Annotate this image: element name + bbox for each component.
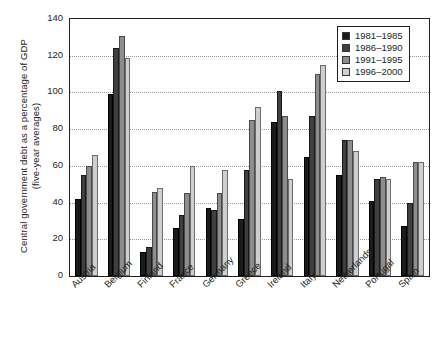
legend-swatch-icon	[342, 68, 350, 76]
y-tick-label: 60	[31, 159, 63, 170]
y-tick-label: 120	[31, 49, 63, 60]
bar-group	[75, 19, 97, 276]
legend-item: 1996–2000	[342, 66, 403, 78]
legend: 1981–19851986–19901991–19951996–2000	[337, 26, 410, 82]
legend-item: 1981–1985	[342, 30, 403, 42]
bar-group	[108, 19, 130, 276]
bar	[92, 155, 98, 276]
bar-group	[173, 19, 195, 276]
legend-label: 1991–1995	[355, 54, 403, 66]
y-axis-title-line2: (five-year averages)	[30, 103, 42, 189]
bar-group	[271, 19, 293, 276]
bar	[190, 166, 196, 276]
legend-label: 1981–1985	[355, 30, 403, 42]
y-tick-label: 100	[31, 85, 63, 96]
bar	[320, 65, 326, 276]
bar	[288, 179, 294, 276]
bar-group	[238, 19, 260, 276]
legend-label: 1996–2000	[355, 66, 403, 78]
legend-swatch-icon	[342, 44, 350, 52]
legend-item: 1986–1990	[342, 42, 403, 54]
legend-label: 1986–1990	[355, 42, 403, 54]
legend-swatch-icon	[342, 56, 350, 64]
y-tick-label: 40	[31, 196, 63, 207]
bar	[255, 107, 261, 276]
bar-group	[304, 19, 326, 276]
y-tick-label: 20	[31, 232, 63, 243]
legend-swatch-icon	[342, 32, 350, 40]
y-axis-title-line1: Central government debt as a percentage …	[18, 39, 30, 253]
y-tick-label: 80	[31, 122, 63, 133]
bar-chart: Central government debt as a percentage …	[0, 0, 439, 339]
bar-group	[140, 19, 162, 276]
bar	[125, 58, 131, 276]
legend-item: 1991–1995	[342, 54, 403, 66]
bar	[418, 162, 424, 276]
bar-group	[206, 19, 228, 276]
x-axis-tick-labels: AustriaBelgiumFinlandFranceGermanyGreece…	[0, 279, 439, 339]
y-tick-label: 140	[31, 12, 63, 23]
